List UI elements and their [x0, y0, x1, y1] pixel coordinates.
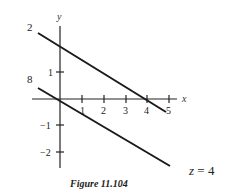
x-tick-label-5: 5 [166, 105, 171, 116]
x-tick-label-3: 3 [123, 105, 128, 116]
x-tick-label-4: 4 [144, 105, 149, 116]
figure-caption: Figure 11.104 [69, 178, 128, 189]
contour-label-upper: 2 [27, 21, 33, 33]
z-annotation: z = 4 [188, 163, 215, 178]
y-axis-label: y [56, 11, 62, 22]
x-tick-label-2: 2 [101, 105, 106, 116]
y-tick-label-neg2: −2 [40, 147, 51, 158]
x-axis-label: x [181, 93, 187, 104]
y-tick-label-1: 1 [48, 67, 53, 78]
y-tick-label-neg1: −1 [40, 120, 51, 131]
z-value: = 4 [194, 163, 215, 178]
contour-figure: y x 1 2 3 4 5 1 −1 −2 2 8 z = 4 Figure 1… [0, 0, 230, 196]
x-tick-label-1: 1 [80, 105, 85, 116]
contour-label-lower: 8 [27, 73, 33, 85]
